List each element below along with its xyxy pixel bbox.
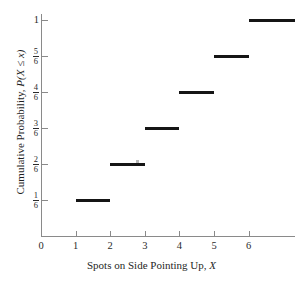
fraction-denominator: 6 — [33, 201, 39, 210]
y-tick-label-fraction: 46 — [33, 83, 39, 101]
x-axis-line — [41, 236, 295, 237]
x-tick-0 — [41, 231, 42, 236]
y-tick-5-6 — [42, 56, 48, 57]
y-axis-title-text: Cumulative Probability, — [14, 87, 26, 195]
fraction-denominator: 6 — [33, 93, 39, 102]
x-tick-label-6: 6 — [239, 241, 259, 252]
step-segment-6 — [249, 19, 295, 22]
x-tick-label-1: 1 — [66, 241, 86, 252]
step-segment-2 — [110, 163, 145, 166]
step-segment-1 — [76, 199, 111, 202]
x-tick-5 — [214, 231, 215, 236]
ink-artifact-mark — [136, 160, 139, 163]
y-axis-line — [41, 14, 42, 237]
step-segment-4 — [179, 91, 214, 94]
x-tick-4 — [179, 231, 180, 236]
y-tick-1-6 — [42, 200, 48, 201]
y-tick-2-6 — [42, 164, 48, 165]
x-axis-title-text: Spots on Side Pointing Up, — [87, 259, 209, 271]
x-tick-label-5: 5 — [204, 241, 224, 252]
x-tick-1 — [76, 231, 77, 236]
y-axis-title: Cumulative Probability, P(X ≤ x) — [14, 10, 26, 234]
fraction-denominator: 6 — [33, 57, 39, 66]
y-tick-1 — [42, 20, 48, 21]
y-tick-label-fraction: 36 — [33, 119, 39, 137]
figure-cdf-die: 0123456 16263646561 Spots on Side Pointi… — [0, 0, 303, 282]
x-tick-3 — [145, 231, 146, 236]
x-tick-label-3: 3 — [135, 241, 155, 252]
y-tick-3-6 — [42, 128, 48, 129]
x-tick-label-4: 4 — [169, 241, 189, 252]
y-tick-label-fraction: 26 — [33, 155, 39, 173]
x-axis-title-variable: X — [209, 259, 216, 271]
y-tick-label-fraction: 16 — [33, 191, 39, 209]
y-axis-title-variable: P(X ≤ x) — [14, 50, 26, 87]
x-tick-6 — [249, 231, 250, 236]
x-tick-label-2: 2 — [100, 241, 120, 252]
y-tick-label-fraction: 56 — [33, 47, 39, 65]
fraction-denominator: 6 — [33, 165, 39, 174]
y-tick-label-whole: 1 — [34, 15, 39, 26]
x-axis-title: Spots on Side Pointing Up, X — [0, 259, 303, 271]
step-segment-3 — [145, 127, 180, 130]
plot-area: 0123456 16263646561 — [0, 0, 303, 282]
step-segment-5 — [214, 55, 249, 58]
y-tick-4-6 — [42, 92, 48, 93]
x-tick-label-0: 0 — [31, 241, 51, 252]
fraction-denominator: 6 — [33, 129, 39, 138]
x-tick-2 — [110, 231, 111, 236]
